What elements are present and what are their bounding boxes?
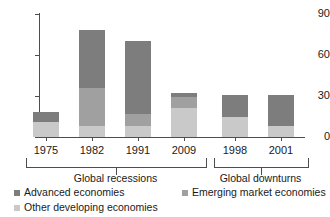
bar-segment-1982-other	[79, 126, 105, 137]
x-axis-tick-mark	[138, 137, 139, 141]
x-axis-label-1991: 1991	[115, 144, 161, 156]
bar-1975	[33, 112, 59, 137]
legend-item-2[interactable]: Other developing economies	[14, 201, 158, 214]
bar-segment-1975-other	[33, 122, 59, 137]
bar-segment-2001-other	[268, 126, 294, 137]
bar-segment-2009-other	[171, 108, 197, 137]
y-axis-tick-mark	[35, 137, 40, 138]
x-axis-label-1998: 1998	[212, 144, 258, 156]
bar-segment-1991-emerging	[125, 114, 151, 126]
legend-swatch-icon	[14, 190, 20, 196]
bar-segment-1982-emerging	[79, 88, 105, 126]
x-axis-tick-mark	[184, 137, 185, 141]
group-bracket-1	[214, 158, 309, 168]
x-axis-label-1975: 1975	[23, 144, 69, 156]
y-axis-tick-label: 90	[300, 8, 330, 19]
bar-segment-2009-emerging	[171, 97, 197, 108]
bar-1991	[125, 41, 151, 137]
bar-segment-1982-advanced	[79, 30, 105, 87]
bar-1982	[79, 30, 105, 137]
bar-2009	[171, 93, 197, 137]
stacked-bar-chart: 9060300 197519821991200919982001 Global …	[0, 0, 330, 217]
x-axis-tick-mark	[235, 137, 236, 141]
legend-item-0[interactable]: Advanced economies	[14, 186, 124, 199]
bar-segment-1991-other	[125, 126, 151, 137]
group-label-1: Global downturns	[201, 173, 321, 184]
x-axis-label-2001: 2001	[258, 144, 304, 156]
y-axis-tick-label: 30	[300, 90, 330, 101]
y-axis-tick-mark	[35, 96, 40, 97]
legend-label: Advanced economies	[24, 186, 124, 199]
bar-2001	[268, 95, 294, 137]
bar-segment-1998-advanced	[222, 95, 248, 117]
x-axis-label-1982: 1982	[69, 144, 115, 156]
x-axis-tick-mark	[281, 137, 282, 141]
bar-segment-2001-advanced	[268, 95, 294, 126]
y-axis-tick-label: 0	[300, 131, 330, 142]
legend-label: Other developing economies	[24, 201, 158, 214]
x-axis-line	[39, 137, 305, 138]
group-label-0: Global recessions	[56, 173, 176, 184]
bar-segment-1975-advanced	[33, 112, 59, 122]
y-axis-tick-mark	[35, 55, 40, 56]
legend-label: Emerging market economies	[192, 186, 326, 199]
legend-swatch-icon	[14, 205, 20, 211]
bar-segment-1991-advanced	[125, 41, 151, 113]
y-axis-tick-mark	[35, 14, 40, 15]
legend-swatch-icon	[182, 190, 188, 196]
group-bracket-0	[26, 158, 207, 168]
y-axis-tick-label: 60	[300, 49, 330, 60]
bar-segment-1998-other	[222, 117, 248, 138]
x-axis-tick-mark	[92, 137, 93, 141]
x-axis-tick-mark	[46, 137, 47, 141]
bar-1998	[222, 95, 248, 137]
x-axis-label-2009: 2009	[161, 144, 207, 156]
legend-item-1[interactable]: Emerging market economies	[182, 186, 326, 199]
